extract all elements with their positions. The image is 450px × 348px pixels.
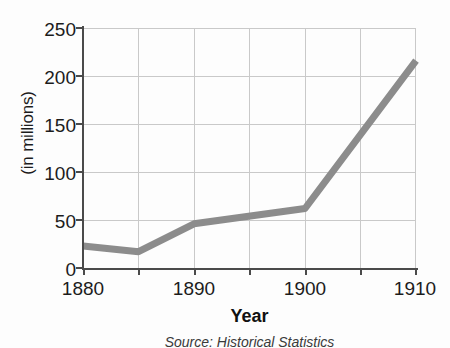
x-tick-label: 1900 xyxy=(260,279,350,298)
x-tick-label: 1880 xyxy=(38,279,128,298)
x-tick-mark xyxy=(249,268,251,275)
x-tick-mark xyxy=(138,268,140,275)
data-series-line xyxy=(83,28,416,268)
x-tick-mark xyxy=(83,268,85,275)
y-tick-label: 150 xyxy=(30,116,76,135)
x-tick-mark xyxy=(305,268,307,275)
y-tick-label: 50 xyxy=(30,212,76,231)
plot-area xyxy=(83,28,416,268)
x-tick-mark xyxy=(360,268,362,275)
x-tick-label: 1910 xyxy=(370,279,450,298)
x-axis-title: Year xyxy=(83,306,416,327)
y-tick-label: 0 xyxy=(30,260,76,279)
y-tick-label: 200 xyxy=(30,68,76,87)
x-tick-mark xyxy=(194,268,196,275)
source-note: Source: Historical Statistics xyxy=(83,334,416,348)
line-chart-figure: (in millions) 250 200 150 100 50 0 18 xyxy=(0,0,450,348)
x-tick-mark xyxy=(415,268,417,275)
y-tick-label: 250 xyxy=(30,20,76,39)
y-tick-label: 100 xyxy=(30,164,76,183)
x-tick-label: 1890 xyxy=(149,279,239,298)
y-axis-spine xyxy=(82,26,84,270)
